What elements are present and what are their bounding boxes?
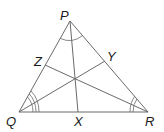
bisector-px [70, 21, 78, 112]
label-z: Z [33, 54, 43, 69]
angle-mark-r-1 [133, 99, 137, 112]
bisector-rz [45, 65, 148, 112]
side-pq [19, 21, 70, 112]
angle-mark-q-1 [28, 97, 34, 112]
side-pr [70, 21, 148, 112]
label-x: X [73, 114, 84, 129]
angle-mark-q-3 [31, 91, 39, 112]
label-r: R [145, 114, 154, 129]
label-y: Y [107, 49, 117, 64]
label-q: Q [6, 114, 16, 129]
triangle-diagram: P Q R X Y Z [0, 0, 164, 132]
label-p: P [60, 8, 69, 23]
